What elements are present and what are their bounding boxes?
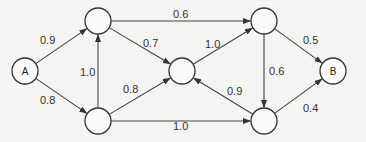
- node-n1: [85, 8, 111, 34]
- edge-weight-label: 0.8: [40, 94, 55, 106]
- node-n2: [85, 108, 111, 134]
- node-circle: [251, 8, 277, 34]
- edge-n3-n4: [193, 28, 252, 64]
- edge-weight-label: 0.7: [143, 37, 158, 49]
- node-n3: [169, 58, 195, 84]
- node-circle: [169, 58, 195, 84]
- edge-weight-label: 0.9: [40, 34, 55, 46]
- network-diagram: 0.90.81.00.60.70.81.01.00.90.60.50.4 AB: [0, 0, 366, 142]
- edge-n5-n3: [194, 78, 253, 114]
- edge-weight-label: 0.5: [303, 34, 318, 46]
- edge-weight-label: 0.8: [123, 83, 138, 95]
- edge-n2-n3: [109, 78, 170, 114]
- edge-weight-label: 0.4: [303, 102, 318, 114]
- node-n4: [251, 8, 277, 34]
- node-circle: [85, 108, 111, 134]
- nodes-group: AB: [12, 8, 346, 134]
- edge-weight-label: 1.0: [205, 38, 220, 50]
- edge-weight-label: 1.0: [80, 66, 95, 78]
- node-n5: [251, 108, 277, 134]
- edge-weight-label: 1.0: [173, 120, 188, 132]
- node-label: A: [22, 66, 29, 77]
- node-B: B: [320, 58, 346, 84]
- edge-n1-n3: [109, 28, 170, 64]
- node-circle: [85, 8, 111, 34]
- edge-weight-label: 0.6: [269, 65, 284, 77]
- edge-weight-label: 0.6: [173, 8, 188, 20]
- node-A: A: [12, 58, 38, 84]
- node-label: B: [330, 66, 337, 77]
- node-circle: [251, 108, 277, 134]
- edge-weight-label: 0.9: [227, 85, 242, 97]
